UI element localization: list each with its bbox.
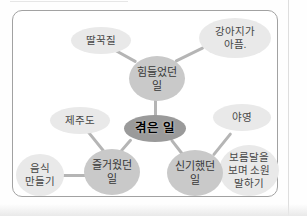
node-fun-experiences-line1: 즐거웠던 xyxy=(92,158,132,172)
node-fullmoon-wish-line2: 보며 소원 xyxy=(228,164,271,177)
node-amazing-experiences-line2: 일 xyxy=(190,173,200,187)
page-bottom-shade xyxy=(0,204,307,216)
mind-map-diagram: 딸꾹질 강아지가 아픔. 제주도 야영 음식 만들기 보름달을 보며 소원 말하… xyxy=(0,0,307,216)
node-making-food-line1: 음식 xyxy=(30,162,50,175)
node-fullmoon-wish-line3: 말하기 xyxy=(234,177,264,190)
node-puppy-sick-line1: 강아지가 xyxy=(215,25,255,38)
node-fullmoon-wish: 보름달을 보며 소원 말하기 xyxy=(219,145,279,196)
node-fun-experiences: 즐거웠던 일 xyxy=(84,149,140,195)
node-making-food: 음식 만들기 xyxy=(16,154,64,196)
node-fullmoon-wish-line1: 보름달을 xyxy=(229,151,269,164)
node-experienced-events: 겪은 일 xyxy=(124,115,186,142)
node-experienced-events-label: 겪은 일 xyxy=(135,122,174,135)
node-making-food-line2: 만들기 xyxy=(25,175,55,188)
node-jeju-island: 제주도 xyxy=(50,107,110,134)
connector-cooking-fun xyxy=(60,174,87,177)
page-edge-line xyxy=(288,0,289,216)
node-hard-experiences-line1: 힘들었던 xyxy=(137,65,177,79)
node-puppy-sick: 강아지가 아픔. xyxy=(199,18,271,58)
node-fun-experiences-line2: 일 xyxy=(107,172,117,186)
node-camping-label: 야영 xyxy=(232,111,252,124)
node-amazing-experiences-line1: 신기했던 xyxy=(175,159,215,173)
node-jeju-island-label: 제주도 xyxy=(65,114,95,127)
node-hard-experiences-line2: 일 xyxy=(152,79,162,93)
scan-artifact-top-line xyxy=(10,1,128,2)
node-puppy-sick-line2: 아픔. xyxy=(224,38,247,51)
node-hiccup: 딸꾹질 xyxy=(71,27,131,54)
node-amazing-experiences: 신기했던 일 xyxy=(167,150,223,196)
node-hard-experiences: 힘들었던 일 xyxy=(129,56,185,101)
node-camping: 야영 xyxy=(213,104,271,131)
node-hiccup-label: 딸꾹질 xyxy=(86,34,116,47)
